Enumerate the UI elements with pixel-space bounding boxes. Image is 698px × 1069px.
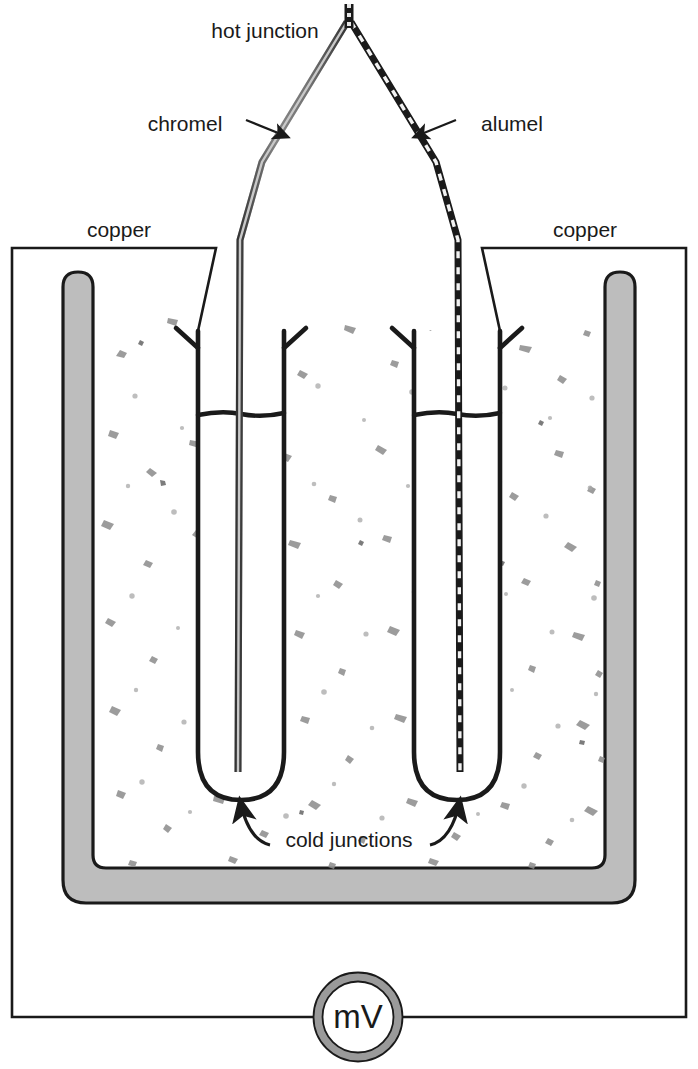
millivolt-meter[interactable]: mV xyxy=(314,973,403,1062)
vessel-cavity xyxy=(95,272,603,866)
hot-junction-label: hot junction xyxy=(211,19,318,42)
alumel-leader-arrow xyxy=(414,120,456,137)
cold-junctions-label: cold junctions xyxy=(285,828,412,851)
chromel-label: chromel xyxy=(148,112,223,135)
meter-label: mV xyxy=(333,998,383,1035)
diagram-canvas: mV hot junction chromel alumel copper co… xyxy=(0,0,698,1069)
ice-bath-vessel xyxy=(63,272,635,903)
thermocouple-diagram: mV hot junction chromel alumel copper co… xyxy=(0,0,698,1069)
alumel-label: alumel xyxy=(481,112,543,135)
copper-label-right: copper xyxy=(553,218,617,241)
copper-label-left: copper xyxy=(87,218,151,241)
